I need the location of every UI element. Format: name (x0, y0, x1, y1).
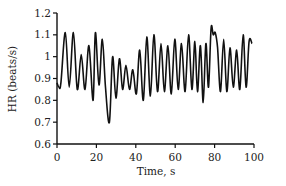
y-axis-title: HR (beats/s) (6, 46, 18, 112)
y-tick-label: 1 (44, 50, 51, 62)
y-tick-label: 0.8 (34, 94, 51, 106)
x-tick-label: 20 (90, 151, 103, 163)
y-tick-label: 0.7 (34, 116, 51, 128)
y-tick-label: 1.1 (34, 28, 51, 40)
hr-series-line (57, 26, 252, 123)
x-axis: 020406080100 (54, 144, 264, 163)
x-tick-label: 100 (244, 151, 264, 163)
x-tick-label: 0 (54, 151, 61, 163)
y-tick-label: 0.6 (34, 138, 51, 150)
y-axis: 0.60.70.80.911.11.2 (34, 7, 57, 150)
y-tick-label: 0.9 (34, 72, 51, 84)
hr-line-chart: 0.60.70.80.911.11.2 020406080100 HR (bea… (0, 0, 286, 186)
x-tick-label: 60 (169, 151, 182, 163)
y-tick-label: 1.2 (34, 7, 51, 19)
x-axis-title: Time, s (137, 165, 176, 177)
x-tick-label: 40 (129, 151, 142, 163)
x-tick-label: 80 (208, 151, 221, 163)
